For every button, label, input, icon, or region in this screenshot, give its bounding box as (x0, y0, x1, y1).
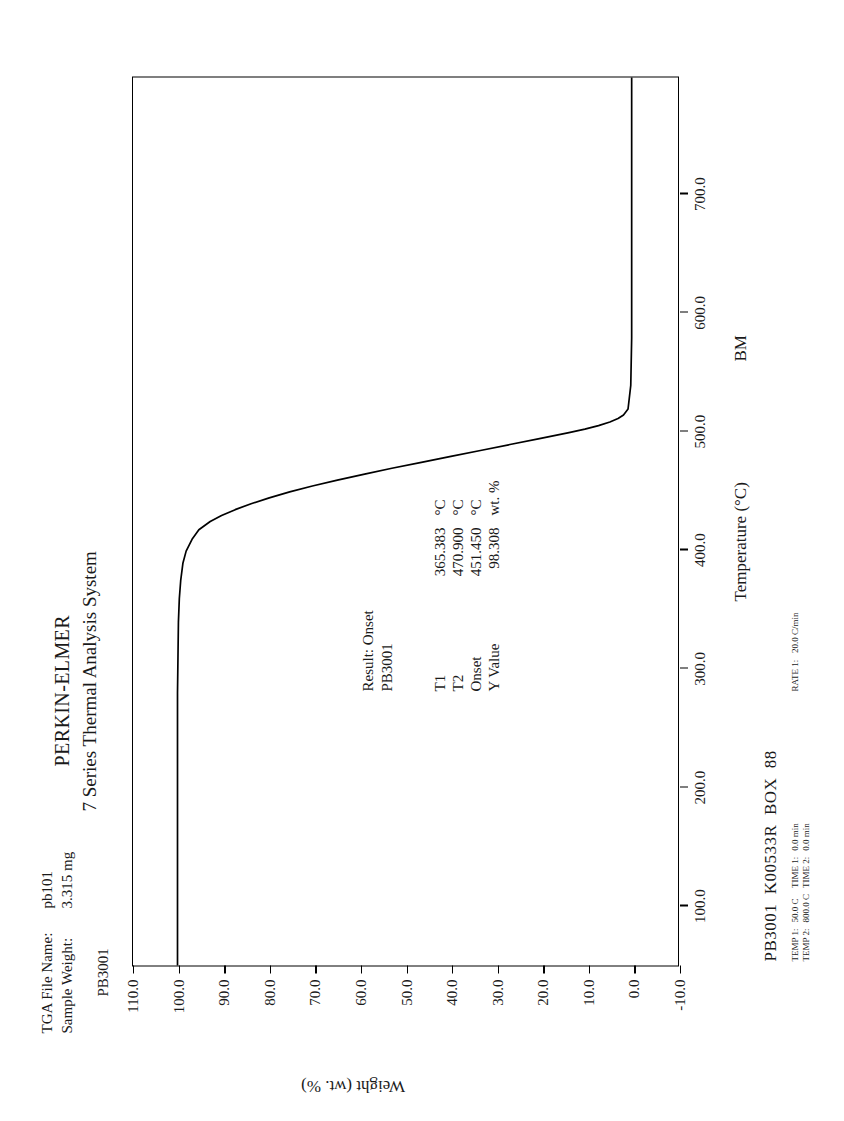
x-axis-title: Temperature (°C) (732, 482, 749, 601)
result-value: 365.383 (432, 515, 450, 613)
y-tick-mark (407, 965, 408, 973)
results-sample: PB3001 (379, 455, 396, 691)
footer-rate: RATE 1: 20.0 C/min (790, 612, 800, 691)
result-value: 98.308 (486, 515, 504, 613)
brand-subtitle: 7 Series Thermal Analysis System (80, 551, 99, 811)
result-row: Onset451.450°C (468, 455, 486, 691)
result-row: T1365.383°C (432, 455, 450, 691)
result-unit: °C (450, 455, 468, 515)
y-tick-mark (315, 965, 316, 973)
y-tick-mark (543, 965, 544, 973)
y-tick-label: -10.0 (672, 979, 689, 1010)
brand-title: PERKIN-ELMER (52, 615, 72, 766)
y-tick-mark (133, 965, 134, 973)
results-block: Result: Onset PB3001 T1365.383°CT2470.90… (360, 455, 504, 691)
temp-value: 50.0 C (790, 888, 801, 923)
tga-report-page: PERKIN-ELMER 7 Series Thermal Analysis S… (0, 0, 844, 1121)
result-name: T1 (432, 613, 450, 691)
y-tick-mark (634, 965, 635, 973)
x-tick-label: 400.0 (692, 533, 709, 567)
time-value: 0.0 min (790, 817, 801, 851)
sample-weight-value: 3.315 mg (60, 851, 75, 908)
x-tick-mark (680, 667, 688, 668)
x-tick-mark (680, 192, 688, 193)
x-tick-mark (680, 311, 688, 312)
result-row: Y Value98.308wt. % (486, 455, 504, 691)
time-value: 0.0 min (801, 817, 812, 851)
y-tick-label: 70.0 (307, 979, 324, 1005)
y-tick-label: 50.0 (398, 979, 415, 1005)
y-axis-title: Weight (wt. %) (301, 1075, 405, 1095)
result-unit: wt. % (486, 455, 504, 515)
sample-weight-label: Sample Weight: (60, 937, 75, 1033)
y-tick-mark (498, 965, 499, 973)
time-label: TIME 2: (801, 850, 812, 887)
result-unit: °C (432, 455, 450, 515)
result-value: 451.450 (468, 515, 486, 613)
x-tick-label: 200.0 (692, 770, 709, 804)
footer-method-params: TEMP 1:50.0 CTIME 1:0.0 minTEMP 2:800.0 … (790, 817, 812, 961)
x-tick-label: 700.0 (692, 177, 709, 211)
time-label: TIME 1: (790, 850, 801, 887)
results-title: Result: Onset (360, 455, 377, 691)
result-name: Onset (468, 613, 486, 691)
file-name-value: pb101 (40, 871, 55, 909)
y-tick-label: 60.0 (352, 979, 369, 1005)
rate-value: 20.0 C/min (790, 612, 800, 653)
x-tick-mark (680, 904, 688, 905)
results-table: T1365.383°CT2470.900°COnset451.450°CY Va… (432, 455, 504, 691)
y-tick-mark (179, 965, 180, 973)
x-tick-mark (680, 786, 688, 787)
x-tick-label: 600.0 (692, 295, 709, 329)
y-tick-label: 80.0 (261, 979, 278, 1005)
rate-label: RATE 1: (790, 659, 800, 691)
x-tick-label: 300.0 (692, 651, 709, 685)
temp-label: TEMP 1: (790, 922, 801, 961)
footer-param-row: TEMP 2:800.0 CTIME 2:0.0 min (801, 817, 812, 961)
result-name: T2 (450, 613, 468, 691)
footer-param-row: TEMP 1:50.0 CTIME 1:0.0 min (790, 817, 801, 961)
result-row: T2470.900°C (450, 455, 468, 691)
footer-sample-line: PB3001 K00533R BOX 88 (762, 750, 779, 961)
y-tick-label: 0.0 (626, 979, 643, 998)
y-tick-label: 30.0 (489, 979, 506, 1005)
y-tick-mark (224, 965, 225, 973)
result-name: Y Value (486, 613, 504, 691)
y-tick-label: 20.0 (535, 979, 552, 1005)
x-tick-label: 100.0 (692, 889, 709, 923)
y-tick-mark (452, 965, 453, 973)
temp-value: 800.0 C (801, 888, 812, 923)
y-tick-mark (589, 965, 590, 973)
file-name-label: TGA File Name: (40, 932, 55, 1033)
temp-label: TEMP 2: (801, 922, 812, 961)
y-tick-mark (361, 965, 362, 973)
result-value: 470.900 (450, 515, 468, 613)
result-unit: °C (468, 455, 486, 515)
y-tick-label: 100.0 (170, 979, 187, 1013)
y-tick-label: 90.0 (216, 979, 233, 1005)
x-tick-mark (680, 430, 688, 431)
operator-initials: BM (732, 335, 749, 361)
x-tick-mark (680, 548, 688, 549)
y-tick-label: 110.0 (125, 979, 142, 1012)
y-tick-mark (680, 965, 681, 973)
y-tick-label: 10.0 (580, 979, 597, 1005)
x-tick-label: 500.0 (692, 414, 709, 448)
sample-id-label: PB3001 (96, 948, 111, 996)
y-tick-mark (270, 965, 271, 973)
y-tick-label: 40.0 (444, 979, 461, 1005)
